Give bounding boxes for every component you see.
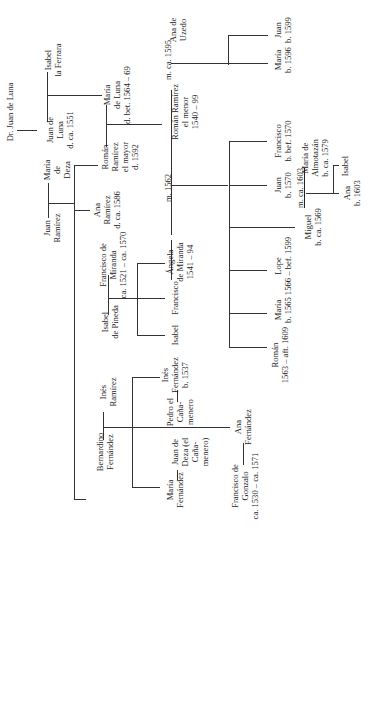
connector [17,130,37,131]
connector [333,165,334,194]
connector [137,335,165,336]
person-maria-1565: María b. 1565 [273,297,293,323]
connector [137,263,165,264]
person-maria-de-deza: María de Deza [42,160,72,181]
connector [103,427,230,428]
person-maria-1596: María b. 1596 [273,47,293,73]
marriage-label-1595: m. ca. 1595 [163,40,173,80]
connector [106,124,162,125]
person-francisco-de-gonzalo: Francisco de Gonzalo ca. 1530 – ca. 1571 [230,453,260,520]
connector [229,313,267,314]
person-francisco-de-miranda: Francisco de Miranda ca. 1521 – ca. 1570 [98,232,128,299]
marriage-label-1562: m. 1562 [163,174,173,202]
person-juan-1599: Juan b. 1599 [273,17,293,43]
person-ana-ramirez: Ana Ramírez d. ca. 1586 [92,191,122,229]
connector [74,165,98,166]
connector [229,347,267,348]
person-ana-1603: Ana b. 1603 [342,180,362,206]
person-francisco-bef-1570: Francisco b. bef. 1570 [273,120,293,161]
person-roman-ramirez-el-menor: Román Ramírez el menor 1540 – 99 [170,84,200,140]
person-juan-1570: Juan b. 1570 [273,172,293,198]
connector [229,185,267,186]
connector [229,141,230,347]
person-roman-1563: Román 1563 – aft. 1609 [270,327,290,383]
connector [132,487,160,488]
connector [333,193,339,194]
person-maria-de-luna: María de Luna d. bet. 1564 – 69 [102,66,132,124]
person-lope: Lope 1566 – bef. 1599 [273,237,293,295]
person-ines-fernandez: Inés Fernández b. 1537 [160,357,190,393]
person-bernardino-fernandez: Bernardino Fernández [95,433,115,472]
connector [228,35,268,36]
family-tree-diagram: Dr. Juan de Luna Juan de Luna d. ca. 155… [0,0,375,722]
connector [171,63,228,64]
connector [228,35,229,65]
connector [228,63,268,64]
person-ines-ramirez: Inés Ramírez [98,377,118,406]
connector [74,499,86,500]
connector [229,227,295,228]
marriage-label-1603: m. ca. 1603 [295,168,305,208]
connector [306,193,333,194]
connector [132,377,133,487]
connector [132,377,160,378]
person-ana-de-uzedo: Ana de Uzedo [168,18,188,43]
person-juan-de-luna: Juan de Luna d. ca. 1551 [45,111,75,149]
person-maria-fernandez: María Fernández [165,472,185,508]
person-angela-de-miranda: Ángela de Miranda 1541 – 94 [165,242,195,281]
person-juan-de-deza: Juan de Deza (el Caña- menero) [170,438,210,467]
connector [171,185,228,186]
connector [229,270,267,271]
person-roman-ramirez-el-mayor: Román Ramírez el mayor d. 1592 [100,142,140,172]
person-ana-fernandez: Ana Fernández [233,409,253,445]
person-francisco: Francisco [170,281,180,314]
person-juan-ramirez: Juan Ramírez [42,213,62,242]
person-isabel-daughter: Isabel [340,156,350,177]
person-dr-juan-de-luna: Dr. Juan de Luna [5,83,15,142]
connector [48,203,74,204]
person-isabel-de-pineda: Isabel de Pineda [100,305,120,339]
connector [333,165,339,166]
connector [74,210,90,211]
person-isabel: Isabel [170,325,180,346]
person-pedro-el-canamenero: Pedro el Caña- menero [165,398,195,426]
connector [229,141,267,142]
connector [74,165,75,500]
connector [47,95,102,96]
connector [137,263,138,335]
person-isabel-la-ferrara: Isabel la Ferrara [43,43,63,76]
person-miguel: Miguel b. ca. 1569 [303,208,323,246]
